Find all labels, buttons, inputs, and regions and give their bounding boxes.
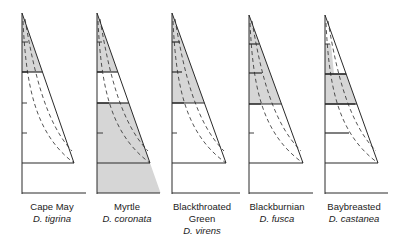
label-cape-may: Cape May D. tigrina	[12, 201, 92, 225]
latin-name: D. coronata	[87, 213, 167, 225]
latin-name: D. castanea	[314, 213, 394, 225]
tree-outline	[22, 13, 74, 163]
foraging-zone-shade	[325, 74, 357, 104]
label-baybreasted: Baybreasted D. castanea	[314, 201, 394, 225]
label-myrtle: Myrtle D. coronata	[87, 201, 167, 225]
inner-zone-dashed-curve	[25, 19, 72, 151]
common-name: Baybreasted	[314, 201, 394, 213]
common-name-line1: Blackthroated	[162, 201, 242, 213]
tree-myrtle	[97, 13, 161, 194]
tree-blackthroated-green	[172, 13, 240, 194]
label-blackburnian: Blackburnian D. fusca	[237, 201, 317, 225]
tree-blackburnian	[249, 15, 313, 194]
latin-name: D. virens	[162, 225, 242, 237]
latin-name: D. fusca	[237, 213, 317, 225]
foraging-zone-shade	[325, 44, 334, 74]
common-name: Myrtle	[87, 201, 167, 213]
tree-baybreasted	[325, 15, 388, 194]
foraging-zone-shade	[97, 103, 161, 193]
common-name: Blackburnian	[237, 201, 317, 213]
latin-name: D. tigrina	[12, 213, 92, 225]
common-name-line2: Green	[162, 213, 242, 225]
tree-cape-may	[22, 13, 86, 194]
label-blackthroated-green: Blackthroated Green D. virens	[162, 201, 242, 237]
common-name: Cape May	[12, 201, 92, 213]
